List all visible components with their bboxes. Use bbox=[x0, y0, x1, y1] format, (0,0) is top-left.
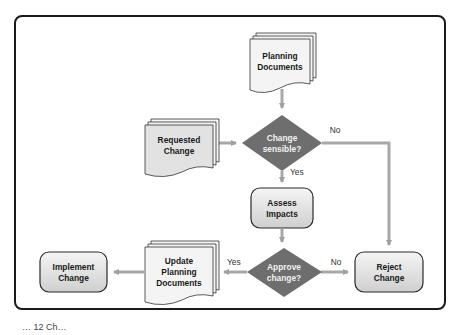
node-label: Change bbox=[359, 272, 419, 283]
node-label: sensible? bbox=[256, 143, 309, 154]
edge-label-sensible-yes: Yes bbox=[290, 166, 304, 177]
node-requested-change: Requested Change bbox=[149, 134, 209, 156]
node-label: Requested bbox=[149, 134, 209, 145]
node-label: Documents bbox=[149, 277, 209, 288]
edge-label-approve-yes: Yes bbox=[227, 256, 241, 267]
node-change-sensible: Change sensible? bbox=[256, 132, 309, 154]
node-label: Assess bbox=[255, 197, 310, 208]
node-label: Update bbox=[149, 255, 209, 266]
node-approve-change: Approve change? bbox=[258, 261, 311, 283]
node-planning-documents: Planning Documents bbox=[254, 50, 307, 72]
node-label: Planning bbox=[254, 50, 307, 61]
node-label: Documents bbox=[254, 61, 307, 72]
node-label: Reject bbox=[359, 261, 419, 272]
node-update-planning-documents: Update Planning Documents bbox=[149, 255, 209, 288]
edge-label-approve-no: No bbox=[331, 256, 342, 267]
node-assess-impacts: Assess Impacts bbox=[255, 197, 310, 219]
node-label: Implement bbox=[44, 261, 103, 272]
node-reject-change: Reject Change bbox=[359, 261, 419, 283]
node-label: Change bbox=[44, 272, 103, 283]
figure-caption: … 12 Ch… bbox=[22, 322, 67, 332]
node-label: Impacts bbox=[255, 208, 310, 219]
node-label: Planning bbox=[149, 266, 209, 277]
node-label: Change bbox=[256, 132, 309, 143]
node-label: Change bbox=[149, 145, 209, 156]
node-label: Approve bbox=[258, 261, 311, 272]
arrow-sensible-no bbox=[322, 143, 389, 245]
node-implement-change: Implement Change bbox=[44, 261, 103, 283]
edge-label-sensible-no: No bbox=[330, 124, 341, 135]
node-label: change? bbox=[258, 272, 311, 283]
flowchart-canvas bbox=[0, 0, 462, 335]
